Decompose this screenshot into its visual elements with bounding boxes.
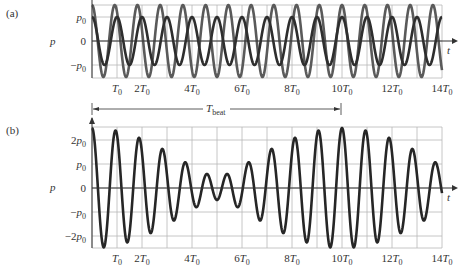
svg-text:−p0: −p0: [70, 59, 86, 74]
tbeat-label: Tbeat: [206, 102, 226, 117]
panel-b-beat-sum: (b) p 2p0p00−p0−2p0 T02T04T06T08T010T012…: [6, 117, 458, 267]
svg-text:12T0: 12T0: [381, 82, 402, 97]
panel-b-label: (b): [6, 124, 19, 137]
svg-text:10T0: 10T0: [331, 82, 352, 97]
y-axis-label-b: p: [49, 181, 56, 193]
y-axis-label-a: p: [49, 35, 56, 47]
svg-text:4T0: 4T0: [184, 82, 200, 97]
svg-text:12T0: 12T0: [381, 252, 402, 267]
x-tick-labels-a: T02T04T06T08T010T012T014T0: [112, 82, 453, 97]
beats-figure: (a) p p00−p0 T02T04T06T08T010T012T014T0 …: [0, 0, 474, 278]
svg-text:2T0: 2T0: [134, 82, 150, 97]
svg-text:2p0: 2p0: [71, 134, 86, 149]
svg-text:p0: p0: [76, 11, 87, 26]
svg-text:14T0: 14T0: [431, 82, 452, 97]
svg-text:4T0: 4T0: [184, 252, 200, 267]
svg-text:−p0: −p0: [70, 206, 86, 221]
y-tick-labels-b: 2p0p00−p0−2p0: [65, 134, 87, 245]
svg-text:6T0: 6T0: [234, 252, 250, 267]
svg-text:14T0: 14T0: [431, 252, 452, 267]
svg-text:0: 0: [81, 182, 87, 194]
svg-text:2T0: 2T0: [134, 252, 150, 267]
svg-text:T0: T0: [112, 252, 122, 267]
svg-text:T0: T0: [112, 82, 122, 97]
x-tick-labels-b: T02T04T06T08T010T012T014T0: [112, 252, 453, 267]
svg-text:8T0: 8T0: [284, 252, 300, 267]
svg-text:6T0: 6T0: [234, 82, 250, 97]
svg-text:−2p0: −2p0: [65, 230, 86, 245]
svg-text:10T0: 10T0: [331, 252, 352, 267]
x-axis-label-a: t: [447, 44, 451, 56]
y-tick-labels-a: p00−p0: [70, 11, 86, 74]
x-axis-label-b: t: [447, 191, 451, 203]
tbeat-annotation: Tbeat: [92, 102, 341, 117]
t-axis-arrow-b: [92, 185, 458, 191]
svg-text:8T0: 8T0: [284, 82, 300, 97]
panel-a-wave-superposition: (a) p p00−p0 T02T04T06T08T010T012T014T0 …: [6, 0, 458, 97]
p-axis-arrow-b: [89, 117, 95, 124]
svg-text:p0: p0: [76, 158, 87, 173]
svg-text:0: 0: [81, 35, 87, 47]
panel-a-label: (a): [6, 7, 19, 20]
